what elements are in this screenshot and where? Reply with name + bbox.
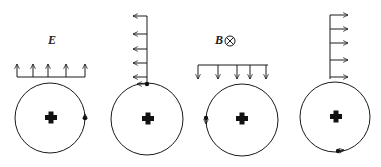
panel-3: B <box>198 33 278 156</box>
electric-field-label: E <box>47 33 56 47</box>
magnetic-field-label: B <box>214 33 223 47</box>
electron-dot-icon <box>204 116 208 124</box>
field-arrows-up <box>17 64 85 77</box>
electron-dot-icon <box>83 114 87 120</box>
nucleus-plus-icon <box>236 113 248 125</box>
diagram-canvas: E <box>0 0 381 167</box>
field-arrows-right <box>330 15 348 79</box>
field-arrows-left <box>133 16 147 84</box>
nucleus-plus-icon <box>330 111 342 123</box>
panel-4 <box>300 15 370 153</box>
nucleus-plus-icon <box>45 112 57 124</box>
panel-1: E <box>15 33 87 153</box>
into-page-icon <box>225 36 235 46</box>
field-arrows-down <box>198 65 268 79</box>
nucleus-plus-icon <box>142 113 154 125</box>
panel-2 <box>111 16 183 155</box>
electron-dot-icon <box>145 82 149 86</box>
